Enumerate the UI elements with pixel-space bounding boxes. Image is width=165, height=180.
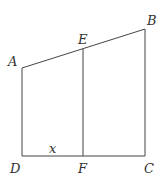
label-d: D: [9, 161, 21, 176]
label-x: x: [49, 141, 57, 156]
label-f: F: [77, 161, 88, 176]
label-c: C: [144, 161, 154, 176]
label-b: B: [146, 13, 157, 28]
label-a: A: [7, 54, 17, 69]
geometry-figure: A B E D F C x: [0, 0, 165, 180]
label-e: E: [77, 32, 88, 47]
